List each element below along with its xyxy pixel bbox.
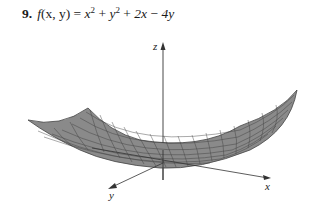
y-axis [112, 163, 163, 187]
paraboloid-surface [28, 90, 297, 168]
surface-plot: z [0, 0, 315, 213]
x-axis-label: x [264, 180, 270, 192]
z-axis-label: z [152, 40, 158, 52]
y-axis-label: y [108, 189, 114, 201]
z-axis-arrow-icon [161, 42, 166, 50]
